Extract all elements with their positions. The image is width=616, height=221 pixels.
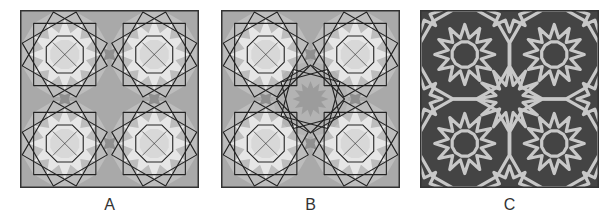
figure-panel-a xyxy=(20,10,199,188)
panel-label-b: B xyxy=(221,196,400,214)
pattern-c-strapwork xyxy=(420,10,599,188)
figure-panel-c xyxy=(420,10,599,188)
pattern-b-construction xyxy=(221,10,400,188)
pattern-a-construction xyxy=(20,10,199,188)
panel-label-a: A xyxy=(20,196,199,214)
figure-panel-b xyxy=(221,10,400,188)
panel-label-c: C xyxy=(420,196,599,214)
